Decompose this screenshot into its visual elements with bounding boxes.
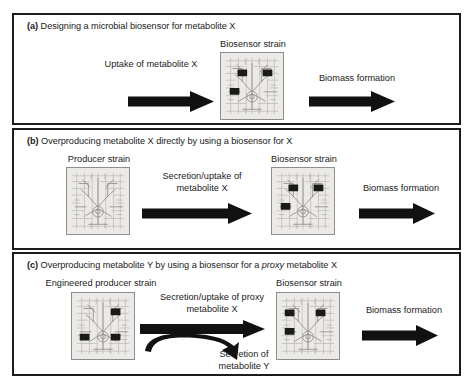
panel-c-biosensor-strain-label: Biosensor strain <box>254 278 364 288</box>
panel-c-title-italic: proxy <box>262 260 284 270</box>
panel-a-uptake-label: Uptake of metabolite X <box>76 59 226 71</box>
panel-b-title-text: Overproducing metabolite X directly by u… <box>39 136 293 146</box>
panel-b-biosensor-strain-image <box>271 167 335 235</box>
panel-b-biosensor-strain-label: Biosensor strain <box>249 154 359 164</box>
panel-c: (c) Overproducing metabolite Y by using … <box>12 252 461 376</box>
panel-c-engineered-producer-strain-image <box>71 292 135 360</box>
metabolic-network-icon <box>67 168 129 234</box>
panel-a-biosensor-strain-label: Biosensor strain <box>198 39 308 49</box>
panel-a-biosensor-strain-image <box>220 52 284 120</box>
metabolic-network-icon <box>221 53 283 119</box>
panel-c-engineered-producer-strain-label: Engineered producer strain <box>26 278 176 288</box>
panel-a-uptake-arrow <box>128 91 214 113</box>
panel-a: (a) Designing a microbial biosensor for … <box>12 13 461 125</box>
panel-c-tag: (c) <box>27 260 38 270</box>
panel-b: (b) Overproducing metabolite X directly … <box>12 128 461 250</box>
panel-b-title: (b) Overproducing metabolite X directly … <box>27 136 292 146</box>
panel-b-biomass-label: Biomass formation <box>341 183 461 195</box>
panel-a-biomass-label: Biomass formation <box>292 73 422 85</box>
metabolic-network-icon <box>72 293 134 359</box>
label-line-1: Secretion of <box>219 349 268 359</box>
label-line-2: metabolite Y <box>219 361 270 371</box>
panel-c-secretion-uptake-proxy-label: Secretion/uptake of proxymetabolite X <box>132 292 292 315</box>
panel-b-secretion-uptake-label: Secretion/uptake ofmetabolite X <box>132 171 272 194</box>
panel-c-biomass-label: Biomass formation <box>344 305 464 317</box>
panel-b-tag: (b) <box>27 136 39 146</box>
figure-biosensor-strategies: (a) Designing a microbial biosensor for … <box>0 0 475 389</box>
panel-a-biomass-arrow <box>309 91 395 113</box>
label-line-1: Secretion/uptake of proxy <box>160 292 264 302</box>
metabolic-network-icon <box>277 293 339 359</box>
metabolic-network-icon <box>272 168 334 234</box>
panel-a-title: (a) Designing a microbial biosensor for … <box>27 21 235 31</box>
label-line-2: metabolite X <box>186 304 237 314</box>
panel-a-title-text: Designing a microbial biosensor for meta… <box>38 21 235 31</box>
label-line-1: Secretion/uptake of <box>162 171 241 181</box>
panel-b-producer-strain-label: Producer strain <box>44 154 154 164</box>
panel-c-title-pre: Overproducing metabolite Y by using a bi… <box>38 260 262 270</box>
label-line-2: metabolite X <box>176 183 227 193</box>
panel-b-biomass-arrow <box>359 203 435 225</box>
panel-b-secretion-uptake-arrow <box>142 203 252 225</box>
panel-c-biosensor-strain-image <box>276 292 340 360</box>
panel-c-title-post: metabolite X <box>284 260 337 270</box>
panel-c-title: (c) Overproducing metabolite Y by using … <box>27 260 337 270</box>
panel-b-producer-strain-image <box>66 167 130 235</box>
panel-a-tag: (a) <box>27 21 38 31</box>
panel-c-biomass-arrow <box>362 325 438 347</box>
